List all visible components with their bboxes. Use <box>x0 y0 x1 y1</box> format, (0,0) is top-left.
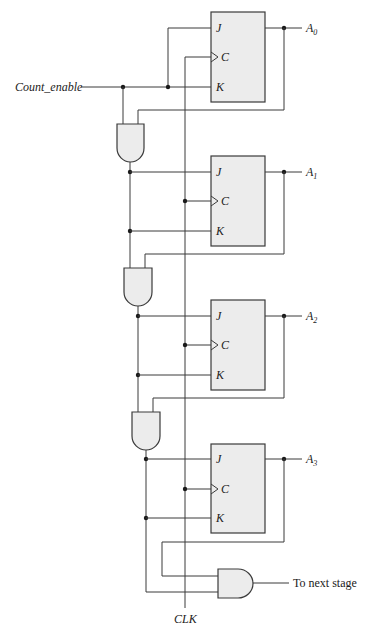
clk-wire <box>185 57 206 608</box>
count-enable-label: Count_enable <box>15 80 83 94</box>
output-label-a3: A3 <box>305 452 317 468</box>
flip-flop-0: J C K <box>211 12 265 102</box>
counter-circuit-diagram: Count_enable CLK J C K A0 J C K A1 <box>0 0 366 635</box>
flip-flop-1: J C K <box>211 156 265 246</box>
to-next-stage-label: To next stage <box>293 576 357 590</box>
pin-k: K <box>215 368 225 382</box>
and3-output-wire <box>146 450 218 592</box>
junction-dot <box>183 343 187 347</box>
flip-flop-3: J C K <box>211 444 265 533</box>
and-gate-4 <box>218 569 253 598</box>
pin-c: C <box>221 338 230 352</box>
pin-k: K <box>215 511 225 525</box>
output-label-a1: A1 <box>305 165 317 181</box>
output-label-a2: A2 <box>305 309 317 325</box>
and-gate-1 <box>117 124 144 162</box>
junction-dot <box>166 85 170 89</box>
junction-dot <box>183 487 187 491</box>
pin-j: J <box>216 165 222 179</box>
junction-dot <box>183 199 187 203</box>
flip-flop-2: J C K <box>211 300 265 390</box>
output-label-a0: A0 <box>305 21 317 37</box>
pin-j: J <box>216 309 222 323</box>
pin-k: K <box>215 224 225 238</box>
pin-c: C <box>221 50 230 64</box>
pin-j: J <box>216 21 222 35</box>
pin-c: C <box>221 194 230 208</box>
and-gate-2 <box>124 268 152 306</box>
and-gate-3 <box>132 412 160 450</box>
pin-c: C <box>221 482 230 496</box>
clk-label: CLK <box>174 612 198 626</box>
pin-k: K <box>215 80 225 94</box>
pin-j: J <box>216 452 222 466</box>
